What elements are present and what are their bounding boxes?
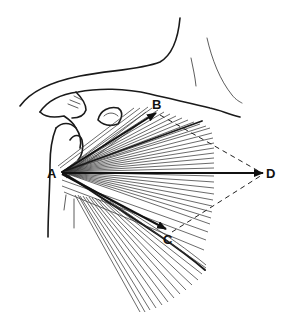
muscle-fibers-descending [75,195,206,312]
muscle-vector-diagram: A B C D [0,0,289,333]
neck-outline [20,18,242,106]
label-c: C [163,232,173,247]
label-b: B [152,97,161,112]
label-d: D [266,166,275,181]
label-a: A [47,166,57,181]
vector-a-c [62,174,166,229]
